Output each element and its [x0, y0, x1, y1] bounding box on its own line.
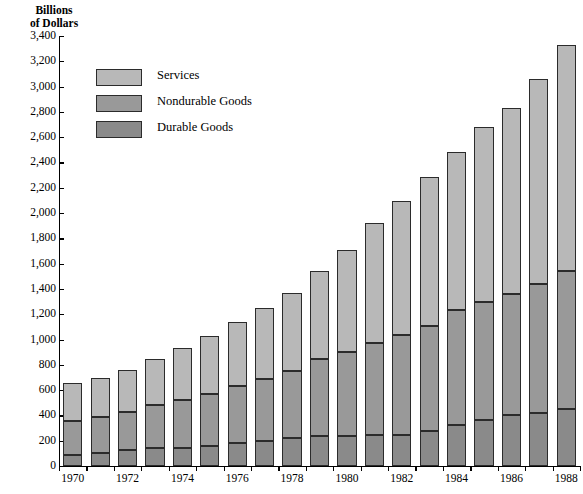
y-axis-tick-label: 2,000 [4, 206, 56, 218]
bar-segment [255, 379, 274, 441]
x-axis-tick-mark [196, 466, 197, 471]
x-axis-tick-mark [141, 466, 142, 471]
bar-segment [282, 293, 301, 371]
x-axis-tick-label: 1974 [152, 472, 212, 484]
x-axis-tick-mark [553, 466, 554, 471]
x-axis-tick-label: 1984 [427, 472, 487, 484]
bar-segment [529, 413, 548, 466]
legend-swatch [96, 95, 142, 112]
bar-segment [365, 435, 384, 466]
y-axis-tick-label: 1,200 [4, 307, 56, 319]
bar-segment [529, 79, 548, 284]
bar-segment [392, 435, 411, 466]
y-axis-tick-label: 800 [4, 358, 56, 370]
bar-segment [557, 271, 576, 409]
bar-segment [63, 383, 82, 421]
x-axis-tick-mark [59, 466, 60, 471]
x-axis-tick-label: 1976 [207, 472, 267, 484]
x-axis-line [59, 466, 580, 467]
bar-segment [557, 409, 576, 466]
bar-segment [145, 359, 164, 406]
x-axis-tick-label: 1988 [536, 472, 583, 484]
bar-segment [200, 336, 219, 394]
y-axis-tick-label: 3,400 [4, 29, 56, 41]
x-axis-tick-mark [251, 466, 252, 471]
bar-segment [91, 453, 110, 466]
bar-segment [310, 359, 329, 436]
y-axis-tick-label: 1,800 [4, 231, 56, 243]
bar-segment [173, 400, 192, 449]
x-axis-tick-mark [415, 466, 416, 471]
bar-segment [255, 441, 274, 466]
y-axis-tick-label: 200 [4, 434, 56, 446]
y-axis-tick-label: 2,800 [4, 105, 56, 117]
x-axis-tick-label: 1982 [372, 472, 432, 484]
bar-1979 [310, 36, 329, 466]
bar-segment [200, 394, 219, 446]
bar-segment [420, 326, 439, 431]
bar-segment [63, 421, 82, 455]
x-axis-tick-mark [525, 466, 526, 471]
bar-segment [118, 450, 137, 466]
y-axis-tick-label: 2,200 [4, 181, 56, 193]
bar-1978 [282, 36, 301, 466]
y-axis-line [59, 36, 60, 467]
y-axis-tick-label: 1,000 [4, 333, 56, 345]
x-axis-tick-mark [498, 466, 499, 471]
bar-segment [502, 415, 521, 466]
x-axis-tick-mark [580, 466, 581, 471]
y-axis-title: Billions of Dollars [4, 4, 104, 30]
legend-label: Nondurable Goods [157, 94, 252, 109]
bar-segment [228, 322, 247, 387]
y-axis-tick-label: 3,200 [4, 54, 56, 66]
bar-segment [173, 348, 192, 400]
x-axis-tick-mark [224, 466, 225, 471]
bar-segment [502, 108, 521, 294]
bar-segment [91, 378, 110, 417]
x-axis-tick-label: 1972 [98, 472, 158, 484]
x-axis-tick-mark [86, 466, 87, 471]
y-axis-tick-label: 1,400 [4, 282, 56, 294]
x-axis-tick-mark [470, 466, 471, 471]
bar-segment [228, 386, 247, 443]
bar-1984 [447, 36, 466, 466]
bar-segment [447, 152, 466, 309]
bar-segment [63, 455, 82, 466]
bar-segment [145, 405, 164, 448]
bar-segment [447, 310, 466, 425]
x-axis-tick-mark [361, 466, 362, 471]
bar-segment [502, 294, 521, 415]
y-axis-tick-label: 1,600 [4, 257, 56, 269]
bar-1970 [63, 36, 82, 466]
bar-1987 [529, 36, 548, 466]
bar-1983 [420, 36, 439, 466]
bar-segment [228, 443, 247, 466]
bar-segment [557, 45, 576, 271]
bar-segment [310, 436, 329, 466]
x-axis-tick-mark [443, 466, 444, 471]
bar-segment [529, 284, 548, 413]
bar-segment [282, 371, 301, 438]
y-axis-tick-label: 3,000 [4, 80, 56, 92]
bar-segment [337, 436, 356, 466]
legend-swatch [96, 121, 142, 138]
bar-1981 [365, 36, 384, 466]
bar-segment [173, 448, 192, 466]
bar-segment [365, 223, 384, 343]
bar-segment [337, 250, 356, 352]
bar-segment [118, 412, 137, 451]
bar-segment [200, 446, 219, 466]
bar-segment [420, 431, 439, 466]
stacked-bar-chart: Billions of Dollars 3,4003,2003,0002,800… [0, 0, 583, 494]
bar-segment [91, 417, 110, 453]
x-axis-tick-mark [114, 466, 115, 471]
bar-segment [282, 438, 301, 466]
bar-1985 [474, 36, 493, 466]
y-axis-tick-label: 400 [4, 408, 56, 420]
y-axis-tick-label: 2,600 [4, 130, 56, 142]
y-axis-tick-label: 600 [4, 383, 56, 395]
x-axis-tick-label: 1980 [317, 472, 377, 484]
bar-segment [255, 308, 274, 379]
bar-1980 [337, 36, 356, 466]
bar-segment [145, 448, 164, 466]
